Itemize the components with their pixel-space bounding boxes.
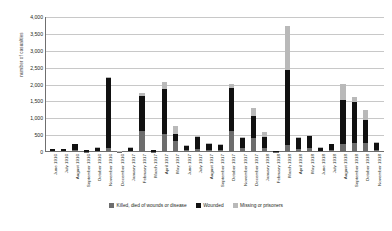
stacked-bar[interactable] [50,149,55,152]
bar-segment-wounded [251,116,256,138]
stacked-bar[interactable] [307,135,312,152]
bar-segment-killed [251,138,256,152]
x-axis-tick-label: June 1916 [53,154,58,175]
bar-segment-killed [84,152,89,153]
stacked-bar[interactable] [61,149,66,152]
stacked-bar[interactable] [206,143,211,152]
x-axis-tick-label: February 1918 [276,154,281,183]
y-axis-tick-label: 2,000 [13,82,43,88]
stacked-bar[interactable] [139,93,144,152]
stacked-bar[interactable] [218,144,223,152]
legend-label: Wounded [203,203,223,208]
x-axis-tick-label: April 1917 [164,154,169,174]
bar-segment-killed [72,150,77,152]
bar-segment-killed [329,150,334,152]
stacked-bar[interactable] [262,132,267,152]
bar-segment-killed [363,143,368,152]
bar-segment-missing [340,84,345,100]
bar-segment-killed [296,149,301,152]
bar-segment-missing [162,82,167,89]
x-tick-slot: June 1916 [47,153,58,197]
stacked-bar[interactable] [72,144,77,152]
stacked-bar[interactable] [251,108,256,152]
x-axis-tick-label: October 1918 [365,154,370,181]
bar-segment-killed [173,141,178,152]
bar-segment-wounded [240,138,245,149]
bar-segment-killed [61,151,66,152]
x-tick-slot: November 1917 [237,153,248,197]
stacked-bar[interactable] [151,150,156,152]
x-axis-tick-label: October 1916 [97,154,102,181]
stacked-bar[interactable] [340,84,345,152]
bar-segment-killed [229,131,234,152]
stacked-bar[interactable] [285,26,290,152]
bar-slot [125,17,136,152]
stacked-bar[interactable] [162,82,167,152]
stacked-bar[interactable] [195,136,200,152]
x-axis-tick-label: June 1917 [187,154,192,175]
bar-segment-killed [374,150,379,152]
x-axis-tick-label: October 1917 [231,154,236,181]
x-axis-tick-label: September 1916 [86,154,91,187]
y-axis-tick-label: 500 [13,132,43,138]
stacked-bar[interactable] [352,97,357,152]
x-tick-slot: May 1917 [170,153,181,197]
stacked-bar[interactable] [84,150,89,152]
y-axis-tick-label: 2,500 [13,65,43,71]
bar-segment-killed [106,148,111,152]
x-tick-slot: January 1918 [259,153,270,197]
bar-segment-wounded [307,136,312,148]
bar-slot [192,17,203,152]
x-tick-slot: September 1918 [349,153,360,197]
legend-item[interactable]: Killed, died of wounds or disease [109,203,187,208]
y-axis-tick-label: 0 [13,149,43,155]
stacked-bar[interactable] [229,84,234,152]
x-axis-tick-label: April 1918 [298,154,303,174]
stacked-bar[interactable] [173,126,178,152]
bar-segment-wounded [340,100,345,144]
legend-item[interactable]: Wounded [196,203,224,208]
stacked-bar[interactable] [296,137,301,152]
stacked-bar[interactable] [184,145,189,152]
stacked-bar[interactable] [106,77,111,152]
stacked-bar[interactable] [374,142,379,152]
legend-label: Missing or prisoners [240,203,283,208]
bar-slot [315,17,326,152]
stacked-bar[interactable] [240,137,245,152]
stacked-bar[interactable] [329,144,334,152]
x-axis-tick-label: July 1916 [64,154,69,173]
x-tick-slot: August 1916 [69,153,80,197]
bar-segment-missing [173,126,178,133]
x-tick-slot: November 1918 [371,153,382,197]
legend-swatch-icon [196,203,201,208]
stacked-bar[interactable] [363,110,368,152]
x-axis-tick-label: March 1918 [287,154,292,178]
x-axis-tick-label: December 1916 [120,154,125,186]
x-tick-slot: October 1916 [92,153,103,197]
bar-slot [337,17,348,152]
bar-slot [136,17,147,152]
x-axis-tick-label: August 1916 [75,154,80,179]
legend-item[interactable]: Missing or prisoners [233,203,283,208]
bar-slot [92,17,103,152]
x-axis-tick-label: January 1917 [131,154,136,181]
bar-slot [58,17,69,152]
bar-segment-killed [240,148,245,152]
x-tick-slot: December 1916 [114,153,125,197]
stacked-bar[interactable] [117,151,122,152]
x-tick-slot: February 1918 [270,153,281,197]
bar-segment-killed [218,150,223,152]
stacked-bar[interactable] [128,147,133,152]
bar-segment-wounded [195,137,200,149]
x-tick-slot: October 1918 [360,153,371,197]
x-tick-slot: June 1917 [181,153,192,197]
x-tick-slot: January 1917 [125,153,136,197]
bar-segment-killed [340,144,345,152]
x-axis-tick-label: December 1917 [254,154,259,186]
stacked-bar[interactable] [95,147,100,152]
stacked-bar[interactable] [318,147,323,152]
x-tick-slot: December 1917 [248,153,259,197]
bar-slot [215,17,226,152]
stacked-bar[interactable] [273,151,278,152]
bar-slot [69,17,80,152]
